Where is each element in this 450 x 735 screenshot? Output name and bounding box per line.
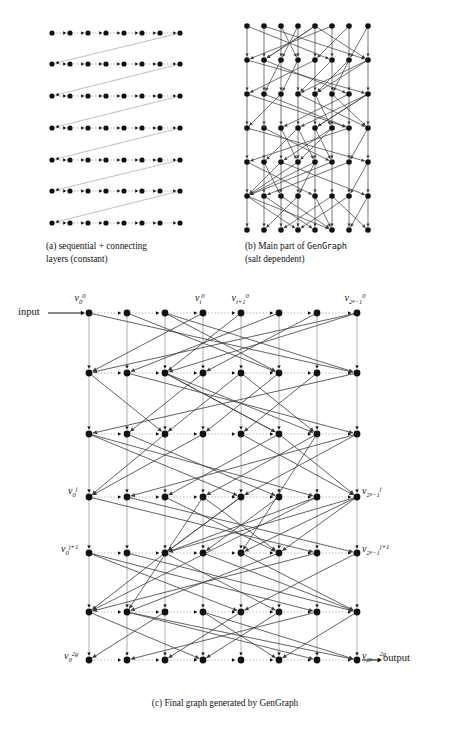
vertex-label-right-2: v2g−12g [362, 650, 386, 663]
vertex-label-left-0: v0j [68, 485, 78, 498]
vertex-label-top-2: vi+10 [232, 292, 249, 305]
figure-root: (a) sequential + connecting layers (cons… [0, 0, 450, 735]
vertex-label-right-0: v2g−1j [362, 485, 382, 498]
vertex-label-top-1: vi0 [195, 292, 205, 305]
vertex-label-top-3: v2g−10 [345, 292, 366, 305]
vertex-label-top-0: v00 [75, 292, 86, 305]
vertex-label-right-1: v2g−1j+1 [362, 543, 389, 556]
gengraph-token: GenGraph [259, 698, 298, 708]
vertex-label-left-1: v0j+1 [61, 543, 78, 556]
vertex-label-left-2: v02g [64, 650, 78, 663]
panel-c-caption: (c) Final graph generated by GenGraph [0, 697, 450, 710]
vertex-label-group: v00vi0vi+10v2g−10v0jv0j+1v02gv2g−1jv2g−1… [0, 0, 450, 735]
